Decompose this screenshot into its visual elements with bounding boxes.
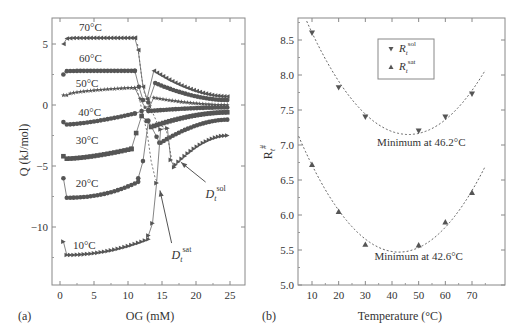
x-tick-label: 60: [440, 289, 452, 301]
data-point: [136, 176, 141, 181]
y-tick-label: 5.5: [280, 244, 294, 256]
data-point: [225, 98, 230, 103]
minimum-annotation: Minimum at 42.6°C: [374, 250, 462, 262]
annotations-b: Minimum at 46.2°CMinimum at 42.6°C: [374, 136, 465, 261]
data-point: [139, 114, 144, 119]
data-point: [122, 86, 127, 91]
data-point: [442, 219, 448, 224]
data-point: [469, 92, 475, 97]
x-tick-label: 0: [57, 289, 63, 301]
annotation-label: Dtsol: [205, 184, 227, 203]
x-tick-label: 15: [157, 289, 169, 301]
data-point: [141, 159, 146, 164]
y-tick-label: 6.0: [280, 209, 294, 221]
data-point: [416, 129, 422, 134]
temperature-label: 20°C: [76, 177, 99, 189]
legend: RtsolRtsat: [378, 39, 434, 79]
data-point: [61, 42, 66, 47]
data-point: [137, 84, 142, 89]
annotations-a: DtsolDtsat: [159, 162, 227, 264]
minimum-annotation: Minimum at 46.2°C: [377, 136, 465, 148]
data-point: [61, 176, 66, 181]
x-tick-label: 10: [123, 289, 135, 301]
data-point: [336, 85, 342, 90]
series-line: [63, 128, 227, 255]
data-point: [225, 117, 230, 122]
data-point: [81, 89, 86, 94]
data-point: [105, 87, 110, 92]
y-tick-label: 7.0: [280, 139, 294, 151]
data-point: [119, 86, 124, 91]
x-tick-label: 40: [387, 289, 399, 301]
data-point: [134, 131, 139, 136]
x-tick-label: 70: [467, 289, 479, 301]
fit-curve: [299, 136, 486, 252]
x-tick-label: 50: [413, 289, 425, 301]
y-tick-label: 8.5: [280, 34, 294, 46]
data-point: [225, 133, 230, 138]
x-axis-label-a: OG (mM): [126, 309, 174, 323]
x-tick-label: 25: [225, 289, 237, 301]
data-point: [309, 31, 315, 36]
data-point: [129, 147, 134, 152]
y-tick-label: 6.5: [280, 174, 294, 186]
data-point: [416, 242, 422, 247]
y-axis-label-a: Q (kJ/mol): [17, 124, 31, 176]
data-point: [469, 190, 475, 195]
data-point: [78, 89, 83, 94]
svg-text:Rt#: Rt#: [259, 145, 277, 159]
panel-label-a: (a): [18, 309, 31, 323]
data-point: [309, 162, 315, 167]
data-point: [154, 134, 159, 139]
annotation-arrow: [160, 190, 172, 243]
y-tick-label: −5: [36, 160, 48, 172]
panel-label-b: (b): [262, 309, 276, 323]
data-point: [336, 209, 342, 214]
data-point: [109, 87, 114, 92]
data-point: [225, 110, 230, 115]
x-tick-label: 5: [91, 289, 97, 301]
data-point: [442, 115, 448, 120]
data-point: [139, 109, 144, 114]
data-point: [85, 89, 90, 94]
y-tick-label: −10: [31, 221, 49, 233]
temperature-label: 70°C: [79, 21, 102, 33]
data-point: [146, 100, 151, 105]
data-point: [133, 111, 138, 116]
data-point: [126, 85, 131, 90]
x-tick-label: 20: [333, 289, 345, 301]
data-point: [75, 90, 80, 95]
temperature-labels: 70°C60°C50°C40°C30°C20°C10°C: [73, 21, 102, 251]
figure: 051015202550−5−10 70°C60°C50°C40°C30°C20…: [0, 0, 509, 334]
data-point: [64, 93, 69, 98]
data-point: [362, 115, 368, 120]
y-axis-label-b: Rt#: [259, 145, 277, 159]
x-tick-label: 20: [191, 289, 203, 301]
data-point: [362, 241, 368, 246]
data-point: [115, 86, 120, 91]
temperature-label: 40°C: [78, 106, 101, 118]
series-line: [63, 38, 227, 99]
y-tick-label: 0: [43, 99, 49, 111]
axis-ticks-a: 051015202550−5−10: [31, 18, 245, 301]
data-point: [61, 72, 66, 77]
annotation-label: Dtsat: [171, 245, 193, 264]
panel-a-chart: 051015202550−5−10 70°C60°C50°C40°C30°C20…: [17, 18, 245, 323]
data-point: [225, 105, 230, 110]
series-R_t-sat: [309, 162, 475, 248]
data-point: [102, 87, 107, 92]
y-tick-label: 5.0: [280, 279, 294, 291]
temperature-label: 10°C: [73, 239, 96, 251]
data-point: [133, 69, 138, 74]
x-tick-label: 30: [360, 289, 372, 301]
data-point: [146, 119, 151, 124]
arrow-head-icon: [159, 190, 164, 196]
panel-b-chart: 102030405060705.05.56.06.57.07.58.08.5 R…: [259, 18, 505, 323]
temperature-label: 50°C: [76, 77, 99, 89]
temperature-label: 30°C: [76, 134, 99, 146]
y-tick-label: 7.5: [280, 104, 294, 116]
y-tick-label: 8.0: [280, 69, 294, 81]
y-tick-label: 5: [43, 38, 49, 50]
data-point: [61, 239, 66, 244]
x-tick-label: 10: [307, 289, 319, 301]
